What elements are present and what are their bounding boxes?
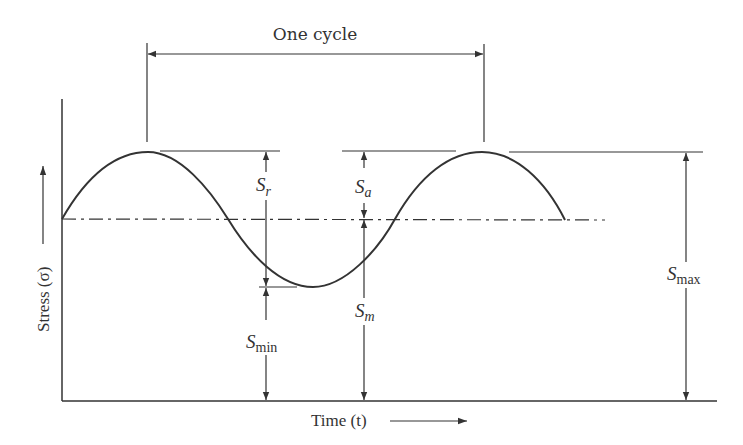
- axes: [62, 99, 717, 401]
- s-a-label: Sa: [355, 176, 372, 200]
- min-stress-dimension: Smin: [246, 288, 277, 400]
- s-max-label: Smax: [667, 263, 701, 287]
- stress-cycle-diagram: Stress (σ) Time (t) One cycle Sr Smin: [0, 0, 743, 445]
- amplitude-dimension: Sa: [355, 152, 372, 218]
- s-r-label: Sr: [256, 174, 272, 199]
- y-axis-label: Stress (σ): [34, 267, 53, 332]
- one-cycle-dimension: One cycle: [147, 24, 484, 142]
- x-axis-label-group: Time (t): [311, 411, 467, 430]
- mean-stress-dimension: Sm: [355, 220, 375, 400]
- s-min-label: Smin: [246, 331, 277, 355]
- max-stress-dimension: Smax: [667, 153, 701, 400]
- diagram-canvas: Stress (σ) Time (t) One cycle Sr Smin: [0, 0, 743, 445]
- mean-stress-line: [62, 219, 605, 220]
- cycle-label: One cycle: [273, 24, 358, 44]
- y-axis-label-group: Stress (σ): [34, 166, 53, 332]
- s-m-label: Sm: [355, 300, 375, 324]
- x-axis-label: Time (t): [311, 411, 367, 430]
